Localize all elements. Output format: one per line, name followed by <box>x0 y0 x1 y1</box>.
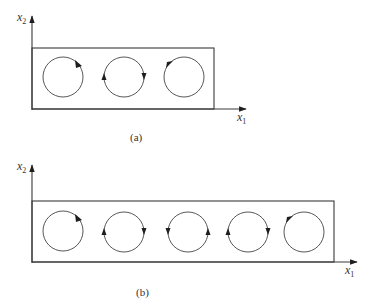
convection-cells-diagram: x2 x1 (a) x2 x1 <box>0 0 371 307</box>
arrow-down-icon <box>166 228 171 235</box>
arrow-up-icon <box>206 228 211 235</box>
convection-cell <box>166 212 211 252</box>
arrow-up-icon <box>102 73 107 80</box>
arrow-icon <box>166 61 173 68</box>
arrow-up-icon <box>102 228 107 235</box>
arrow-up-icon <box>226 228 231 235</box>
convection-cell <box>43 57 83 97</box>
panel-a: x2 x1 (a) <box>16 10 246 144</box>
x-axis-label: x1 <box>236 110 246 126</box>
arrow-down-icon <box>142 228 147 235</box>
arrow-icon <box>75 60 82 68</box>
convection-cell <box>284 212 324 252</box>
convection-cell <box>102 212 147 252</box>
enclosure-box <box>32 201 334 262</box>
arrow-icon <box>286 216 293 223</box>
arrow-down-icon <box>266 228 271 235</box>
panel-b: x2 x1 (b) <box>16 159 357 299</box>
arrow-down-icon <box>142 73 147 80</box>
convection-cell <box>43 211 83 251</box>
arrow-icon <box>75 214 82 222</box>
convection-cell <box>102 57 147 97</box>
y-axis-label: x2 <box>16 159 26 175</box>
x-axis-label: x1 <box>344 263 354 279</box>
y-axis-label: x2 <box>16 10 26 26</box>
caption-a: (a) <box>130 131 143 144</box>
convection-cell <box>226 212 271 252</box>
caption-b: (b) <box>136 286 149 299</box>
convection-cell <box>164 57 204 97</box>
